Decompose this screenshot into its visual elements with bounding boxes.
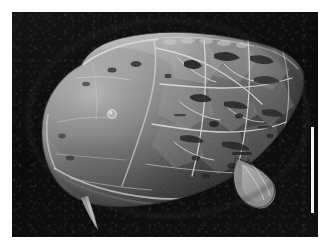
specimen [18, 18, 310, 230]
micrograph-field [12, 12, 318, 237]
figure-root [0, 0, 332, 250]
scale-bar [311, 127, 314, 213]
specimen-svg [18, 18, 310, 230]
